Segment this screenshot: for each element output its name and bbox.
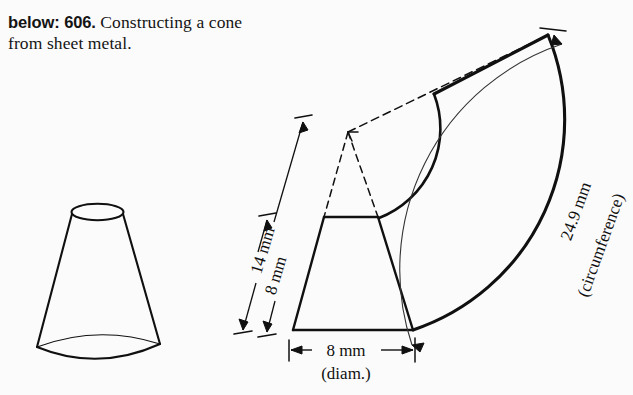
label-diameter-note: (diam.) [321,364,371,383]
frustum-bottom-front-arc [37,344,160,359]
dashed-radius-inner-right [348,132,378,217]
frustum-bottom-back-arc [37,335,160,347]
cone-frustum-illustration [37,204,160,359]
frustum-top-ellipse [72,204,124,220]
outer-arc [413,35,565,330]
arrowhead-left-diam [291,346,302,354]
extension-tick-bottom-8mm [258,334,276,337]
extension-tick-circumference-top [540,28,566,31]
arrowhead-right-diam [402,346,413,354]
figure-page: below: 606. Constructing a cone from she… [0,0,633,395]
arrowhead-top-14mm [299,122,308,133]
extension-tick-bottom-14mm [234,331,252,334]
dimension-diameter-8mm: 8 mm (diam.) [289,338,415,383]
trapezoid-left-edge [293,217,324,330]
extension-tick-top-8mm [259,213,276,216]
trapezoid-right-edge [378,217,413,330]
arrowhead-circumference-bottom [412,343,424,352]
dashed-radius-left [324,132,348,217]
dimension-circumference: 24.9 mm (circumference) [400,28,629,352]
arrowhead-bottom-14mm [239,319,248,330]
frustum-right-edge [123,214,160,344]
label-diameter-8mm: 8 mm [326,341,365,360]
apex-arrowhead [348,132,358,141]
dimension-arc-circumference [400,44,562,345]
flat-pattern-development [293,35,565,330]
arrowhead-bottom-8mm [263,321,272,332]
outer-radius-edge-top [434,35,548,94]
label-circumference: 24.9 mm [557,179,596,242]
cone-construction-diagram: 14 mm 8 mm 8 mm [0,0,633,395]
arrowhead-circumference-top [551,35,562,45]
frustum-left-edge [37,214,72,347]
dimension-line-upper-14mm [274,122,303,222]
extension-tick-top-14mm [295,115,312,118]
